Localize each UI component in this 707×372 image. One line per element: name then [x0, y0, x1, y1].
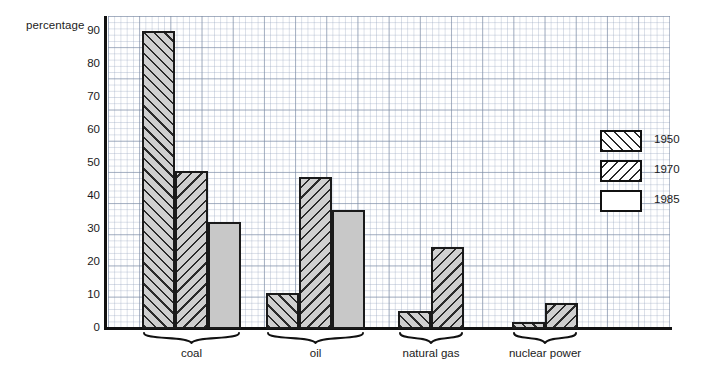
bar-nuclear-power-1970 [545, 303, 578, 329]
group-brace [512, 332, 578, 345]
y-tick-label: 60 [66, 123, 100, 135]
bar-oil-1970 [299, 177, 332, 329]
bars-layer [108, 16, 670, 329]
y-tick-label: 80 [66, 57, 100, 69]
y-tick-label: 70 [66, 90, 100, 102]
group-brace [266, 332, 365, 345]
solid-white-swatch [600, 190, 642, 212]
y-tick-label: 40 [66, 189, 100, 201]
bar-natural-gas-1950 [398, 311, 431, 329]
y-tick-label: 50 [66, 156, 100, 168]
y-axis-line [104, 16, 107, 329]
bar-oil-1950 [266, 293, 299, 329]
group-label-nuclear-power: nuclear power [482, 347, 608, 359]
bar-coal-1950 [142, 31, 175, 329]
hatch-forward-swatch [600, 130, 642, 152]
group-label-natural-gas: natural gas [368, 347, 494, 359]
y-tick-label: 30 [66, 222, 100, 234]
hatch-back-swatch [600, 160, 642, 182]
bar-natural-gas-1970 [431, 247, 464, 329]
y-tick-label: 90 [66, 24, 100, 36]
legend-label: 1985 [654, 193, 680, 205]
y-tick-label: 0 [66, 321, 100, 333]
legend-label: 1970 [654, 163, 680, 175]
y-tick-label: 20 [66, 255, 100, 267]
group-brace [142, 332, 241, 345]
y-axis-tick-labels: 0102030405060708090 [62, 0, 100, 372]
y-tick-label: 10 [66, 288, 100, 300]
group-brace [398, 332, 464, 345]
bar-oil-1985 [332, 210, 365, 329]
chart-canvas: percentage 0102030405060708090 coaloilna… [0, 0, 707, 372]
bar-coal-1970 [175, 171, 208, 329]
bar-coal-1985 [208, 222, 241, 329]
bar-nuclear-power-1950 [512, 322, 545, 329]
legend-label: 1950 [654, 133, 680, 145]
